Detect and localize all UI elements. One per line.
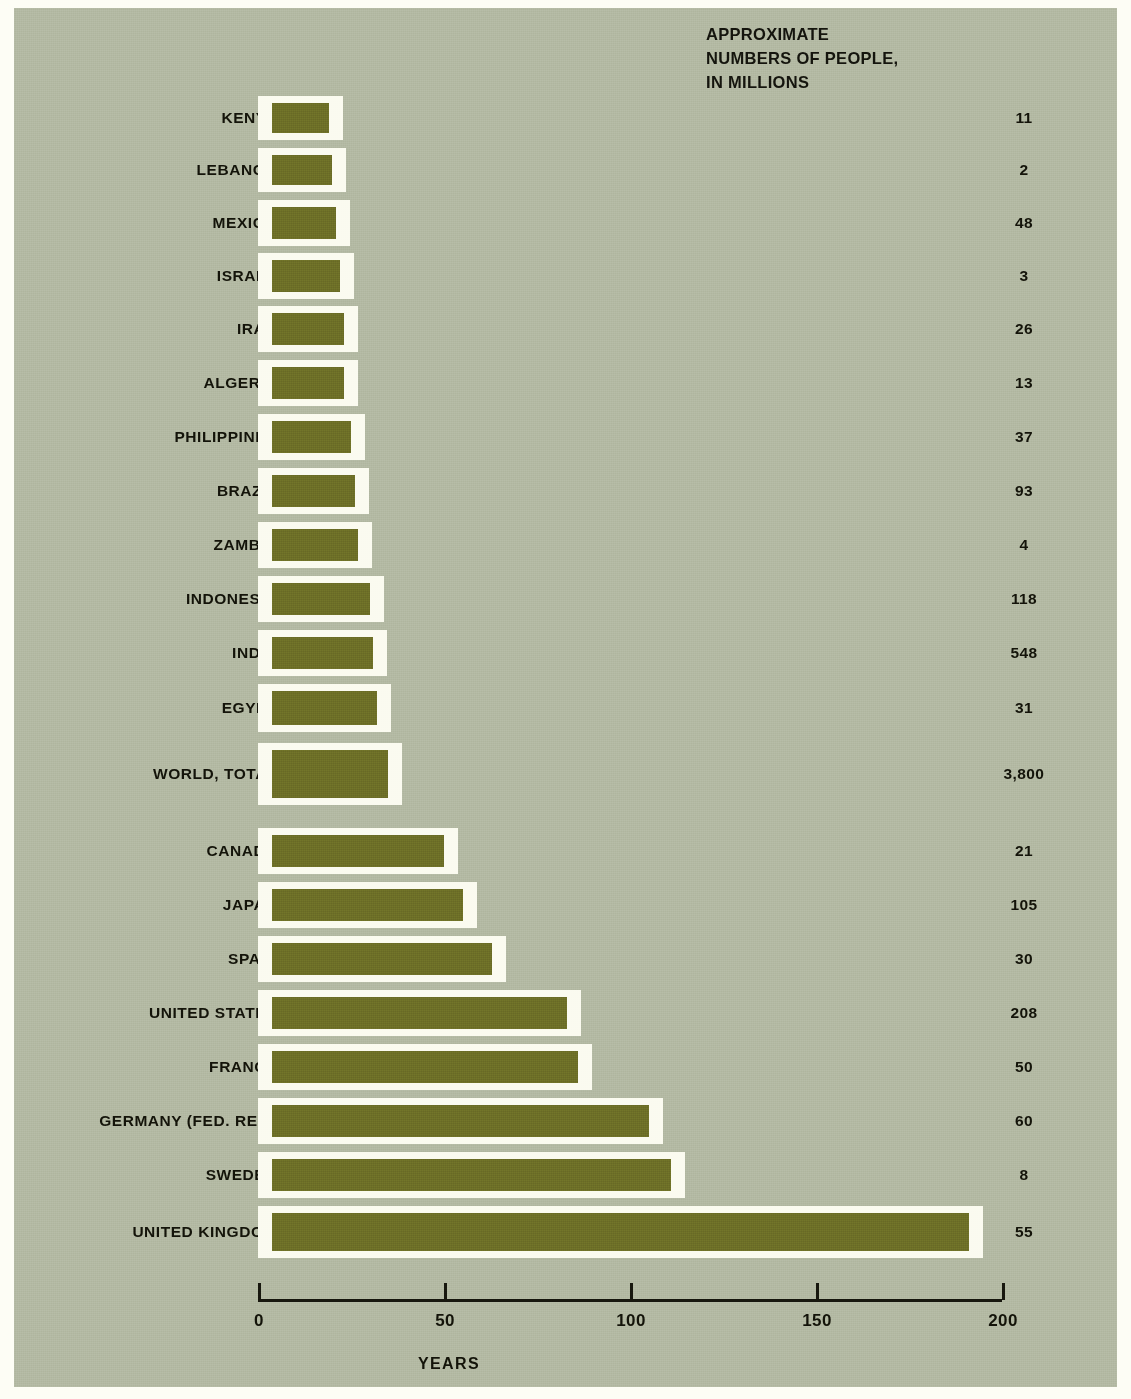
bar-outline [258, 882, 477, 928]
bar-row: EGYPT31 [14, 684, 1117, 732]
bar-label-united-kingdom: UNITED KINGDOM [132, 1224, 277, 1240]
bar-chart-plot: KENYA11LEBANON2MEXICO48ISRAEL3IRAN26ALGE… [14, 8, 1117, 1387]
bar-row: JAPAN105 [14, 882, 1117, 928]
bar-row: GERMANY (FED. REP.)60 [14, 1098, 1117, 1144]
bar-row: INDONESIA118 [14, 576, 1117, 622]
population-value: 60 [989, 1113, 1059, 1129]
population-value: 48 [989, 215, 1059, 231]
x-tick-label-150: 150 [787, 1311, 847, 1331]
bar-fill [272, 835, 444, 867]
population-value: 548 [989, 645, 1059, 661]
population-value: 3,800 [989, 766, 1059, 782]
population-value: 11 [989, 110, 1059, 126]
x-tick-label-50: 50 [415, 1311, 475, 1331]
bar-outline [258, 743, 402, 805]
bar-outline [258, 1152, 685, 1198]
population-value: 118 [989, 591, 1059, 607]
bar-fill [272, 529, 358, 561]
bar-row: KENYA11 [14, 96, 1117, 140]
bar-fill [272, 1105, 649, 1137]
bar-row: ISRAEL3 [14, 253, 1117, 299]
bar-fill [272, 997, 567, 1029]
x-tick-150 [816, 1283, 819, 1300]
bar-outline [258, 253, 354, 299]
bar-outline [258, 684, 391, 732]
bar-outline [258, 414, 365, 460]
population-value: 26 [989, 321, 1059, 337]
bar-outline [258, 630, 387, 676]
x-tick-200 [1002, 1283, 1005, 1300]
population-value: 31 [989, 700, 1059, 716]
x-tick-label-100: 100 [601, 1311, 661, 1331]
bar-fill [272, 421, 351, 453]
bar-row: SPAIN30 [14, 936, 1117, 982]
population-value: 2 [989, 162, 1059, 178]
bar-fill [272, 1051, 578, 1083]
bar-outline [258, 96, 343, 140]
bar-row: LEBANON2 [14, 148, 1117, 192]
x-tick-50 [444, 1283, 447, 1300]
population-value: 208 [989, 1005, 1059, 1021]
bar-fill [272, 1159, 671, 1191]
bar-label-germany-fed-rep: GERMANY (FED. REP.) [99, 1113, 277, 1129]
bar-outline [258, 200, 350, 246]
bar-row: PHILIPPINES37 [14, 414, 1117, 460]
bar-fill [272, 691, 377, 725]
bar-fill [272, 260, 340, 292]
bar-outline [258, 1044, 592, 1090]
bar-row: ALGERIA13 [14, 360, 1117, 406]
bar-outline [258, 990, 581, 1036]
bar-outline [258, 468, 369, 514]
bar-fill [272, 583, 370, 615]
bar-outline [258, 1206, 983, 1258]
bar-outline [258, 936, 506, 982]
bar-fill [272, 1213, 969, 1251]
bar-row: MEXICO48 [14, 200, 1117, 246]
population-value: 50 [989, 1059, 1059, 1075]
bar-fill [272, 750, 388, 798]
bar-outline [258, 828, 458, 874]
bar-fill [272, 637, 373, 669]
bar-row: INDIA548 [14, 630, 1117, 676]
x-axis: 050100150200 YEARS [14, 1263, 1117, 1383]
bar-fill [272, 207, 336, 239]
bar-fill [272, 475, 355, 507]
bar-outline [258, 522, 372, 568]
population-value: 3 [989, 268, 1059, 284]
bar-fill [272, 889, 463, 921]
bar-row: UNITED KINGDOM55 [14, 1206, 1117, 1258]
population-value: 55 [989, 1224, 1059, 1240]
chart-figure: APPROXIMATE NUMBERS OF PEOPLE, IN MILLIO… [14, 8, 1117, 1387]
x-tick-100 [630, 1283, 633, 1300]
bar-row: WORLD, TOTAL3,800 [14, 743, 1117, 805]
bar-fill [272, 367, 344, 399]
x-tick-0 [258, 1283, 261, 1300]
population-value: 8 [989, 1167, 1059, 1183]
population-value: 21 [989, 843, 1059, 859]
bar-row: BRAZIL93 [14, 468, 1117, 514]
bar-outline [258, 576, 384, 622]
bar-row: CANADA21 [14, 828, 1117, 874]
bar-outline [258, 148, 346, 192]
bar-fill [272, 103, 329, 133]
population-value: 105 [989, 897, 1059, 913]
x-axis-title: YEARS [14, 1355, 884, 1373]
population-value: 37 [989, 429, 1059, 445]
bar-outline [258, 1098, 663, 1144]
bar-row: ZAMBIA4 [14, 522, 1117, 568]
bar-outline [258, 360, 358, 406]
population-value: 13 [989, 375, 1059, 391]
bar-row: SWEDEN8 [14, 1152, 1117, 1198]
bar-row: IRAN26 [14, 306, 1117, 352]
population-value: 30 [989, 951, 1059, 967]
bar-row: UNITED STATES208 [14, 990, 1117, 1036]
bar-outline [258, 306, 358, 352]
population-value: 93 [989, 483, 1059, 499]
bar-row: FRANCE50 [14, 1044, 1117, 1090]
bar-fill [272, 313, 344, 345]
population-value: 4 [989, 537, 1059, 553]
bar-fill [272, 943, 492, 975]
bar-fill [272, 155, 332, 185]
x-tick-label-200: 200 [973, 1311, 1033, 1331]
x-tick-label-0: 0 [229, 1311, 289, 1331]
